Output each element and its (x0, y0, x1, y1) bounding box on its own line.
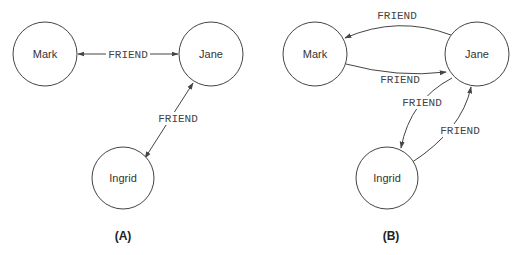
edge-label-a-jane-ingrid: FRIEND (158, 113, 198, 125)
diagram-b: FRIEND FRIEND FRIEND FRIEND Mark Jane In… (283, 10, 509, 243)
edge-label-a-mark-jane: FRIEND (108, 49, 148, 61)
graph-diagrams: FRIEND FRIEND Mark Jane Ingrid (A) FRIEN… (0, 0, 527, 255)
edge-label-b-mark-jane: FRIEND (380, 74, 420, 86)
node-label-b-ingrid: Ingrid (373, 172, 401, 184)
edge-label-b-ingrid-jane: FRIEND (440, 125, 480, 137)
node-label-b-mark: Mark (303, 48, 328, 60)
diagram-a: FRIEND FRIEND Mark Jane Ingrid (A) (13, 22, 243, 243)
edge-b-jane-mark (345, 26, 451, 38)
node-label-b-jane: Jane (465, 48, 489, 60)
caption-b: (B) (383, 229, 400, 243)
edge-label-b-jane-mark: FRIEND (377, 10, 417, 22)
caption-a: (A) (115, 229, 132, 243)
node-label-a-ingrid: Ingrid (109, 172, 137, 184)
edge-b-jane-ingrid (401, 78, 452, 148)
node-label-a-jane: Jane (199, 48, 223, 60)
edge-b-mark-jane (346, 64, 446, 74)
edge-label-b-jane-ingrid: FRIEND (402, 97, 442, 109)
node-label-a-mark: Mark (33, 48, 58, 60)
